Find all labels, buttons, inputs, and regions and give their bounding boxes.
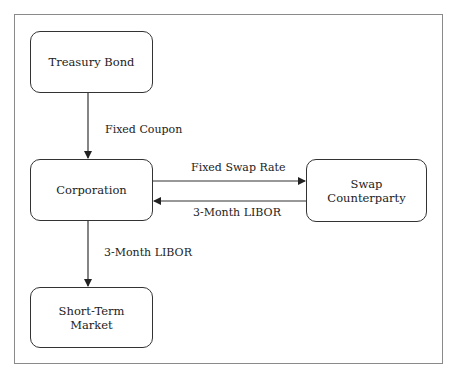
node-label: Corporation <box>56 183 127 197</box>
node-short-term-market: Short-Term Market <box>30 287 153 348</box>
node-label: Treasury Bond <box>49 55 135 69</box>
edge-label-libor-shortterm: 3-Month LIBOR <box>104 246 192 259</box>
node-swap-counterparty: Swap Counterparty <box>306 159 427 222</box>
node-treasury-bond: Treasury Bond <box>30 31 153 93</box>
edge-label-libor-return: 3-Month LIBOR <box>193 206 281 219</box>
node-corporation: Corporation <box>30 159 153 221</box>
node-label: Swap Counterparty <box>327 177 405 205</box>
edge-label-fixed-swap-rate: Fixed Swap Rate <box>191 161 285 174</box>
node-label: Short-Term Market <box>59 304 125 332</box>
edge-label-fixed-coupon: Fixed Coupon <box>105 123 182 136</box>
